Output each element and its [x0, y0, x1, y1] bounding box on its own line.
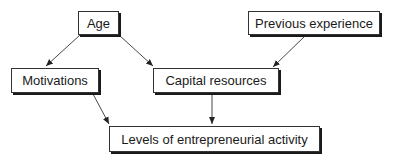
node-motivations-label: Motivations — [22, 73, 88, 88]
edge-motivations-levels — [93, 94, 109, 124]
node-levels-of-entrepreneurial-activity: Levels of entrepreneurial activity — [109, 126, 320, 152]
node-previous-experience-label: Previous experience — [255, 16, 373, 31]
node-previous-experience: Previous experience — [248, 11, 380, 35]
node-levels-label: Levels of entrepreneurial activity — [121, 132, 307, 147]
node-capital-resources-label: Capital resources — [165, 73, 266, 88]
edge-previous-experience-capital-resources — [273, 36, 305, 67]
node-age: Age — [78, 11, 119, 35]
node-motivations: Motivations — [11, 68, 99, 93]
edge-age-capital-resources — [119, 35, 153, 66]
edge-age-motivations — [46, 35, 80, 66]
node-capital-resources: Capital resources — [153, 68, 279, 93]
node-age-label: Age — [87, 16, 110, 31]
